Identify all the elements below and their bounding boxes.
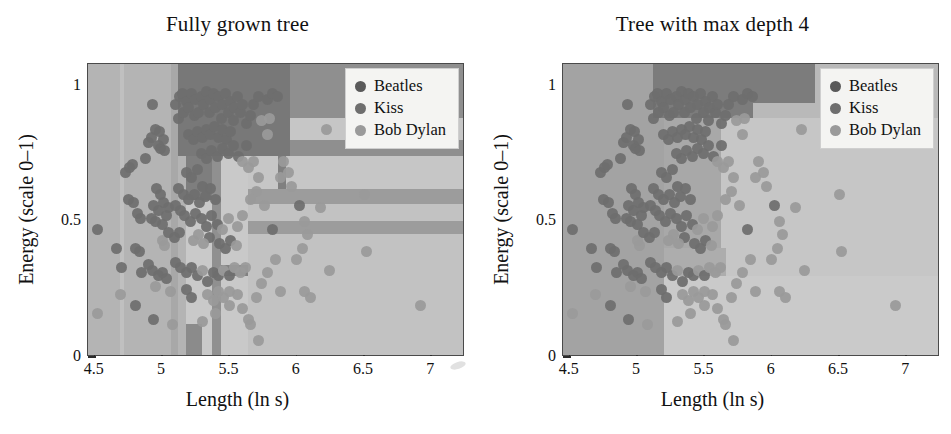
scatter-point — [361, 246, 372, 257]
scatter-point — [737, 129, 748, 140]
scatter-point — [251, 292, 262, 303]
scatter-point — [734, 200, 745, 211]
scatter-point — [761, 181, 772, 192]
scatter-point — [270, 254, 281, 265]
legend: BeatlesKissBob Dylan — [345, 68, 459, 149]
y-tick — [88, 356, 96, 358]
legend-item[interactable]: Beatles — [830, 75, 921, 97]
scatter-point — [772, 243, 783, 254]
decision-region — [248, 221, 464, 233]
scatter-point — [262, 267, 273, 278]
decision-region — [248, 204, 464, 222]
scatter-point — [623, 314, 634, 325]
legend-item[interactable]: Beatles — [355, 75, 446, 97]
scatter-point — [586, 243, 597, 254]
scatter-point — [739, 113, 750, 124]
scatter-point — [602, 159, 613, 170]
y-tick-label: 0 — [514, 347, 556, 365]
legend-label: Bob Dylan — [374, 122, 446, 139]
scatter-point — [163, 227, 174, 238]
legend-swatch-dot-icon — [355, 81, 366, 92]
scatter-point — [286, 181, 297, 192]
scatter-point — [836, 246, 847, 257]
scatter-point — [415, 300, 426, 311]
scatter-point — [712, 303, 723, 314]
y-tick-label: 0 — [39, 347, 81, 365]
scatter-point — [667, 164, 678, 175]
x-tick-label: 7 — [426, 360, 434, 378]
x-tick-label: 5.5 — [218, 360, 238, 378]
scatter-point — [240, 262, 251, 273]
y-tick-label: 0.5 — [39, 211, 81, 229]
scatter-point — [715, 262, 726, 273]
y-tick — [563, 356, 571, 358]
scatter-point — [165, 286, 176, 297]
scatter-point — [799, 265, 810, 276]
scatter-point — [796, 124, 807, 135]
y-axis-title: Energy (scale 0–1) — [15, 99, 38, 319]
scatter-point — [115, 289, 126, 300]
scatter-point — [262, 129, 273, 140]
scatter-point — [231, 240, 242, 251]
scatter-point — [638, 227, 649, 238]
x-tick-label: 5 — [157, 360, 165, 378]
scatter-point — [267, 224, 278, 235]
legend-swatch-dot-icon — [830, 125, 841, 136]
scatter-point — [890, 300, 901, 311]
scatter-point — [699, 300, 710, 311]
scatter-point — [609, 246, 620, 257]
x-tick-label: 6 — [292, 360, 300, 378]
legend-item[interactable]: Kiss — [830, 97, 921, 119]
x-tick-label: 6.5 — [353, 360, 373, 378]
scatter-point — [161, 273, 172, 284]
scatter-point — [324, 265, 335, 276]
plot-wrap-left: BeatlesKissBob Dylan — [87, 63, 464, 356]
x-tick-label: 7 — [901, 360, 909, 378]
legend-item[interactable]: Bob Dylan — [830, 119, 921, 141]
scatter-point — [745, 254, 756, 265]
legend-item[interactable]: Kiss — [355, 97, 446, 119]
x-tick-label: 6.5 — [828, 360, 848, 378]
scatter-point — [305, 292, 316, 303]
legend-item[interactable]: Bob Dylan — [355, 119, 446, 141]
panel-title-left: Fully grown tree — [0, 12, 475, 37]
scatter-point — [625, 281, 636, 292]
scatter-point — [294, 200, 305, 211]
scatter-point — [737, 267, 748, 278]
scatter-point — [640, 286, 651, 297]
scatter-point — [726, 292, 737, 303]
legend-swatch-dot-icon — [830, 103, 841, 114]
x-tick-label: 6 — [767, 360, 775, 378]
x-tick-label: 4.5 — [84, 360, 104, 378]
scan-smudge-left — [449, 360, 466, 372]
scatter-point — [259, 200, 270, 211]
scatter-point — [297, 243, 308, 254]
legend-swatch-dot-icon — [830, 81, 841, 92]
legend-label: Beatles — [849, 78, 898, 95]
x-tick-label: 4.5 — [559, 360, 579, 378]
scatter-point — [150, 281, 161, 292]
scatter-point — [661, 292, 672, 303]
scatter-point — [780, 292, 791, 303]
plot-wrap-right: BeatlesKissBob Dylan — [562, 63, 939, 356]
scatter-point — [567, 224, 578, 235]
legend-swatch-dot-icon — [355, 125, 366, 136]
x-axis-title: Length (ln s) — [475, 388, 950, 411]
scatter-point — [753, 156, 764, 167]
two-panel-scatter-figure: Fully grown tree BeatlesKissBob Dylan 4.… — [0, 0, 951, 434]
scatter-point — [834, 189, 845, 200]
scatter-point — [130, 300, 141, 311]
scatter-point — [224, 300, 235, 311]
x-axis-title: Length (ln s) — [0, 388, 475, 411]
scatter-point — [706, 240, 717, 251]
panel-tree-max-depth-4: Tree with max depth 4 BeatlesKissBob Dyl… — [475, 0, 950, 434]
y-tick-label: 1 — [514, 76, 556, 94]
scatter-point — [127, 159, 138, 170]
scatter-point — [742, 224, 753, 235]
scatter-point — [672, 265, 683, 276]
scatter-point — [237, 303, 248, 314]
scatter-point — [707, 289, 718, 300]
y-tick-label: 0.5 — [514, 211, 556, 229]
y-axis-title: Energy (scale 0–1) — [490, 99, 513, 319]
scatter-point — [232, 289, 243, 300]
